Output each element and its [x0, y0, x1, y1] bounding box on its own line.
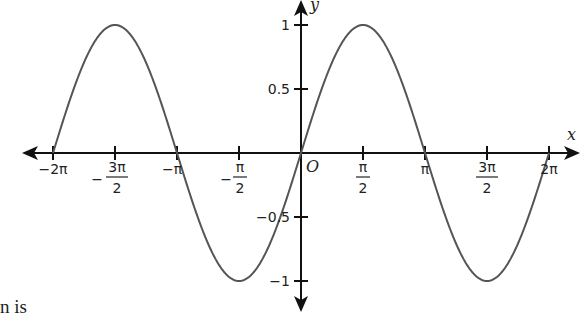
svg-text:3π: 3π — [478, 159, 496, 175]
ytick-m0-5: −0.5 — [256, 209, 290, 225]
xtick-mpi: −π — [162, 161, 183, 177]
svg-text:3π: 3π — [108, 159, 126, 175]
svg-text:−: − — [220, 171, 232, 187]
svg-text:π: π — [236, 159, 245, 175]
y-axis-label: y — [309, 0, 320, 14]
xtick-m3pi2: − 3π 2 — [91, 159, 128, 196]
svg-text:π: π — [359, 159, 368, 175]
svg-text:2: 2 — [113, 180, 122, 196]
ytick-m1: −1 — [269, 273, 290, 289]
origin-label: O — [306, 157, 319, 176]
xtick-mpi2: − π 2 — [220, 159, 247, 196]
x-axis-label: x — [567, 125, 576, 144]
ytick-0-5: 0.5 — [268, 81, 290, 97]
xtick-3pi2: 3π 2 — [476, 159, 498, 196]
svg-text:2: 2 — [483, 180, 492, 196]
svg-text:2: 2 — [359, 180, 368, 196]
xtick-m2pi: −2π — [38, 161, 68, 177]
xtick-pi: π — [421, 161, 430, 177]
sine-graph: −2π − 3π 2 −π − π 2 π 2 π 3π 2 2π 1 0.5 … — [0, 0, 581, 317]
text-fragment: n is — [0, 296, 27, 317]
xtick-2pi: 2π — [540, 161, 558, 177]
xtick-pi2: π 2 — [356, 159, 370, 196]
svg-text:2: 2 — [236, 180, 245, 196]
svg-text:−: − — [91, 171, 103, 187]
ytick-1: 1 — [281, 17, 290, 33]
